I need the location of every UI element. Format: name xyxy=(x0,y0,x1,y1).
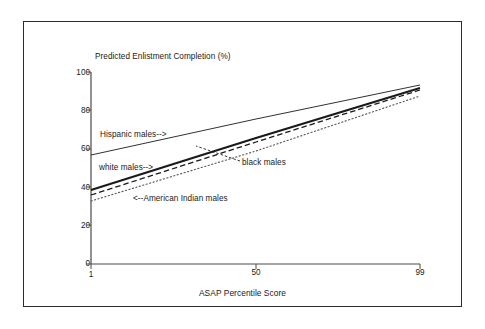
x-axis-title: ASAP Percentile Score xyxy=(0,288,485,298)
series-annotation-white-males: white males--> xyxy=(99,163,153,172)
figure-root: Predicted Enlistment Completion (%) 100 … xyxy=(0,0,485,329)
y-tick-label-0: 0 xyxy=(66,259,90,268)
y-tick-label-80: 80 xyxy=(66,106,90,115)
y-tick-label-60: 60 xyxy=(66,144,90,153)
y-tick-label-100: 100 xyxy=(66,68,90,77)
y-axis-title: Predicted Enlistment Completion (%) xyxy=(95,52,231,61)
y-tick-label-40: 40 xyxy=(66,183,90,192)
y-tick-label-20: 20 xyxy=(66,221,90,230)
series-annotation-black-males: black males xyxy=(242,158,286,167)
series-annotation-american-indian-males: <--American Indian males xyxy=(133,194,228,203)
x-tick-label-50: 50 xyxy=(243,268,269,277)
series-annotation-hispanic-males: Hispanic males--> xyxy=(100,130,167,139)
x-tick-label-99: 99 xyxy=(407,268,433,277)
x-tick-label-1: 1 xyxy=(78,270,104,279)
